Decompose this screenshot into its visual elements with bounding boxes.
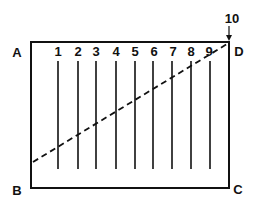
line-number-9: 9 <box>205 44 212 59</box>
corner-label-c: C <box>233 182 243 197</box>
label-10: 10 <box>225 11 239 26</box>
outer-rectangle <box>31 42 229 188</box>
corner-label-a: A <box>12 45 22 60</box>
line-number-6: 6 <box>150 44 157 59</box>
arrow-down-icon <box>226 35 232 41</box>
rectangle-diagram: 1 2 3 4 5 6 7 8 9 10 A B C D <box>0 0 257 205</box>
dashed-diagonal <box>33 44 227 162</box>
line-number-7: 7 <box>169 44 176 59</box>
corner-label-b: B <box>12 183 21 198</box>
line-number-4: 4 <box>112 44 120 59</box>
corner-label-d: D <box>234 44 243 59</box>
line-number-8: 8 <box>187 44 194 59</box>
line-number-1: 1 <box>54 44 61 59</box>
line-number-2: 2 <box>74 44 81 59</box>
vertical-lines <box>58 61 210 169</box>
line-number-5: 5 <box>131 44 138 59</box>
line-number-3: 3 <box>92 44 99 59</box>
